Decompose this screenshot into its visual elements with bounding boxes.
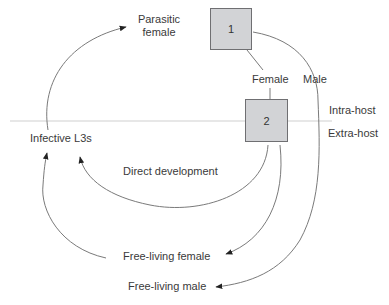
stage-box-1: 1	[210, 8, 252, 50]
parasitic-female-label: Parasitic female	[132, 13, 186, 39]
direct-development-label: Direct development	[123, 165, 218, 178]
infective-l3s-label: Infective L3s	[30, 132, 92, 145]
male-edge-label: Male	[303, 73, 327, 86]
extra-host-label: Extra-host	[328, 127, 378, 140]
stage-box-2: 2	[245, 99, 288, 142]
arrow-free-living-female-to-infective	[43, 153, 106, 258]
free-living-male-label: Free-living male	[128, 280, 206, 293]
line-box1-to-female	[247, 50, 263, 70]
arrow-box1-male-to-free-living-male	[216, 32, 319, 287]
arrow-infective-to-parasitic	[47, 27, 126, 130]
female-edge-label: Female	[252, 73, 289, 86]
stage-box-1-label: 1	[228, 23, 234, 35]
parasitic-female-line1: Parasitic	[132, 13, 186, 26]
intra-host-label: Intra-host	[329, 104, 375, 117]
stage-box-2-label: 2	[263, 115, 269, 127]
parasitic-female-line2: female	[132, 26, 186, 39]
arrow-box2-to-free-living-female	[226, 145, 281, 254]
free-living-female-label: Free-living female	[123, 250, 210, 263]
